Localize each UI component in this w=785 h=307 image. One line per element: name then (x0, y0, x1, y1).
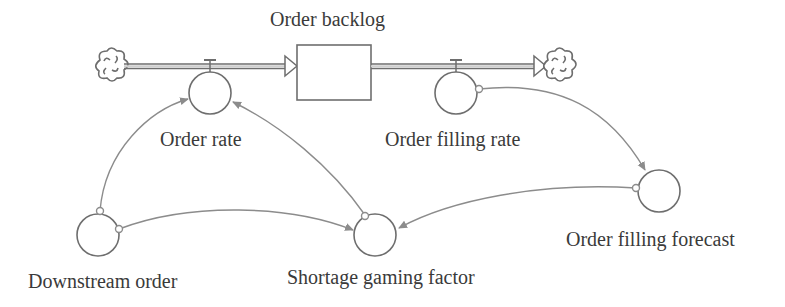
order-filling-forecast-node[interactable] (638, 170, 680, 212)
link-origin-icon (97, 208, 104, 215)
sink-cloud-icon (544, 48, 576, 81)
link-downstream-to-order-rate (100, 99, 188, 211)
order-backlog-label: Order backlog (270, 9, 385, 29)
link-forecast-to-shortage (399, 187, 636, 228)
order-backlog-stock[interactable] (297, 45, 371, 100)
shortage-gaming-factor-node[interactable] (354, 214, 396, 256)
order-filling-forecast-label: Order filling forecast (566, 229, 735, 249)
source-cloud-icon (96, 48, 128, 81)
link-origin-icon (116, 226, 123, 233)
flow-arrowhead-icon (285, 56, 297, 76)
link-origin-icon (362, 213, 369, 220)
diagram-graphics (0, 0, 785, 307)
shortage-gaming-factor-label: Shortage gaming factor (287, 267, 475, 287)
link-downstream-to-shortage (119, 210, 353, 230)
downstream-order-node[interactable] (77, 214, 119, 256)
order-rate-label: Order rate (160, 129, 242, 149)
link-origin-icon (476, 86, 483, 93)
link-shortage-to-order-rate (233, 102, 365, 215)
stock-flow-diagram: Order backlog Order rate Order filling r… (0, 0, 785, 307)
link-origin-icon (633, 185, 640, 192)
order-filling-rate-label: Order filling rate (385, 129, 521, 149)
downstream-order-label: Downstream order (28, 271, 177, 291)
